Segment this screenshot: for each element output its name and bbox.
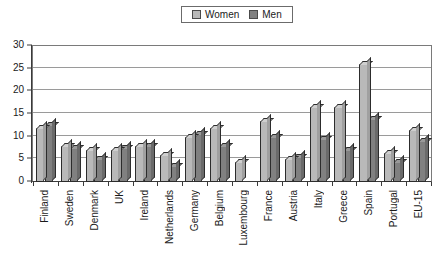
x-axis-tick-label: Austria bbox=[289, 190, 299, 221]
bar-side-face bbox=[52, 118, 56, 181]
legend-entry-men: Men bbox=[249, 10, 281, 20]
chart-legend: Women Men bbox=[181, 6, 293, 23]
bar-women bbox=[260, 121, 268, 182]
x-axis-tick-mark bbox=[182, 182, 183, 186]
bar-women bbox=[285, 159, 293, 182]
x-axis-tick-label: Luxembourg bbox=[239, 190, 249, 246]
bar-side-face bbox=[127, 141, 131, 181]
bar-women bbox=[210, 128, 218, 182]
bar-side-face bbox=[301, 150, 305, 181]
x-axis-tick-mark bbox=[33, 182, 34, 186]
bar-side-face bbox=[425, 134, 429, 181]
bar-side-face bbox=[68, 139, 72, 181]
x-axis-tick-label: Denmark bbox=[90, 190, 100, 231]
bar-group bbox=[406, 46, 431, 182]
y-axis-tick-label: 0 bbox=[18, 176, 24, 186]
y-axis-tick-label: 20 bbox=[13, 85, 24, 95]
bar-side-face bbox=[151, 139, 155, 181]
x-axis-tick-label: EU-15 bbox=[414, 190, 424, 218]
legend-swatch-men-icon bbox=[249, 10, 258, 19]
bar-group bbox=[307, 46, 332, 182]
bar-side-face bbox=[217, 121, 221, 181]
x-axis: FinlandSwedenDenmarkUKIrelandNetherlands… bbox=[33, 182, 431, 259]
y-axis-tick-label: 15 bbox=[13, 108, 24, 118]
bar-side-face bbox=[168, 148, 172, 181]
y-axis: 051015202530 bbox=[0, 40, 32, 188]
x-axis-tick-label: Spain bbox=[364, 190, 374, 216]
bar-group bbox=[207, 46, 232, 182]
x-axis-tick-mark bbox=[381, 182, 382, 186]
bar-group bbox=[356, 46, 381, 182]
bar-side-face bbox=[226, 139, 230, 181]
x-axis-tick-label: Italy bbox=[314, 190, 324, 208]
bar-group bbox=[33, 46, 58, 182]
bar-women bbox=[36, 128, 44, 182]
bar-group bbox=[332, 46, 357, 182]
bar-women bbox=[185, 137, 193, 182]
bar-side-face bbox=[192, 130, 196, 181]
bar-women bbox=[409, 130, 417, 182]
bar-side-face bbox=[102, 152, 106, 181]
x-axis-tick-label: Ireland bbox=[140, 190, 150, 221]
bar-side-face bbox=[367, 57, 371, 181]
x-axis-tick-mark bbox=[83, 182, 84, 186]
x-axis-tick-mark bbox=[157, 182, 158, 186]
bar-side-face bbox=[292, 152, 296, 181]
x-axis-tick-label: Belgium bbox=[215, 190, 225, 226]
bar-group bbox=[83, 46, 108, 182]
x-axis-tick-mark bbox=[232, 182, 233, 186]
y-axis-tick-label: 25 bbox=[13, 63, 24, 73]
bar-side-face bbox=[176, 159, 180, 181]
bar-side-face bbox=[77, 141, 81, 181]
x-axis-tick-mark bbox=[58, 182, 59, 186]
x-axis-tick-label: Germany bbox=[190, 190, 200, 231]
bar-side-face bbox=[400, 155, 404, 181]
bar-side-face bbox=[276, 130, 280, 181]
bar-side-face bbox=[242, 155, 246, 181]
bar-side-face bbox=[326, 132, 330, 181]
bar-side-face bbox=[143, 139, 147, 181]
bar-group bbox=[58, 46, 83, 182]
bar-women bbox=[111, 150, 119, 182]
x-axis-tick-mark bbox=[133, 182, 134, 186]
bar-side-face bbox=[350, 143, 354, 181]
x-axis-tick-mark bbox=[207, 182, 208, 186]
bar-women bbox=[334, 107, 342, 182]
bar-side-face bbox=[267, 114, 271, 181]
bar-side-face bbox=[43, 121, 47, 181]
x-axis-tick-mark bbox=[332, 182, 333, 186]
bar-side-face bbox=[317, 100, 321, 181]
x-axis-tick-mark bbox=[108, 182, 109, 186]
x-axis-tick-label: Netherlands bbox=[165, 190, 175, 244]
x-axis-tick-label: Finland bbox=[40, 190, 50, 223]
legend-entry-women: Women bbox=[192, 10, 239, 20]
bar-women bbox=[235, 162, 243, 182]
bar-women bbox=[86, 150, 94, 182]
legend-label-men: Men bbox=[262, 10, 281, 20]
bar-women bbox=[160, 155, 168, 182]
bar-group bbox=[182, 46, 207, 182]
x-axis-tick-label: Sweden bbox=[65, 190, 75, 226]
x-axis-tick-mark bbox=[356, 182, 357, 186]
bar-group bbox=[282, 46, 307, 182]
x-axis-tick-mark bbox=[307, 182, 308, 186]
legend-swatch-women-icon bbox=[192, 10, 201, 19]
bar-side-face bbox=[391, 146, 395, 181]
bar-group bbox=[232, 46, 257, 182]
bar-side-face bbox=[93, 143, 97, 181]
x-axis-tick-mark bbox=[257, 182, 258, 186]
bars-container bbox=[33, 46, 431, 182]
y-axis-tick-label: 30 bbox=[13, 40, 24, 50]
bar-side-face bbox=[201, 127, 205, 181]
y-axis-tick-label: 5 bbox=[18, 153, 24, 163]
bar-group bbox=[381, 46, 406, 182]
bar-side-face bbox=[416, 123, 420, 181]
bar-women bbox=[359, 64, 367, 182]
x-axis-tick-mark bbox=[282, 182, 283, 186]
bar-women bbox=[135, 146, 143, 182]
bar-women bbox=[61, 146, 69, 182]
bar-side-face bbox=[342, 100, 346, 181]
bar-side-face bbox=[118, 143, 122, 181]
y-axis-tick-label: 10 bbox=[13, 131, 24, 141]
bar-side-face bbox=[375, 112, 379, 181]
